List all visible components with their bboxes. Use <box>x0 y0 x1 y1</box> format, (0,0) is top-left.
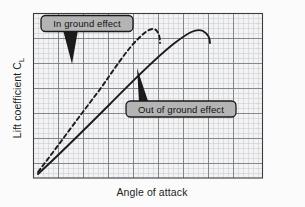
y-axis-label-main: Lift coefficient C <box>11 62 23 139</box>
y-axis-label-subscript: L <box>17 58 26 62</box>
chart-figure: In ground effect Out of ground effect Li… <box>0 0 305 207</box>
callout-label-out-of-ground-effect: Out of ground effect <box>138 104 224 115</box>
x-axis-label: Angle of attack <box>117 186 189 198</box>
callout-label-in-ground-effect: In ground effect <box>53 18 121 29</box>
